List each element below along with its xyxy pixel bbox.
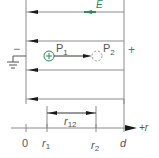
right-plate-sign: + — [128, 43, 135, 57]
r-axis-arrowhead — [125, 125, 137, 131]
e-field-label: E — [96, 0, 103, 10]
tick-label-0: 0 — [22, 137, 28, 149]
r12-label: r12 — [64, 115, 77, 129]
e-field-arrow — [84, 10, 96, 14]
left-plate-sign: − — [13, 42, 20, 56]
field-arrowheads — [28, 10, 38, 101]
p2-label: P2 — [103, 42, 115, 57]
ground-icon — [7, 56, 26, 68]
tick-label-r2: r2 — [91, 139, 100, 153]
positive-charge-icon — [44, 51, 54, 61]
p1-label: P1 — [56, 42, 68, 57]
r-axis-label: +r — [139, 122, 149, 133]
displacement-arrowhead — [83, 54, 92, 58]
tick-label-r1: r1 — [42, 137, 51, 151]
ghost-charge-icon — [92, 51, 102, 61]
tick-label-d: d — [120, 137, 127, 149]
parallel-plate-field-diagram: E − + P1 P2 r12 +r — [0, 0, 159, 158]
